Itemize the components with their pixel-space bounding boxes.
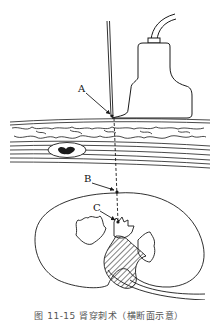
kidney-puncture-diagram: A B C [0,0,218,300]
puncture-needle [107,21,113,116]
probe-body [112,43,192,118]
label-b: B [84,173,119,194]
svg-text:A: A [77,83,86,94]
svg-text:B: B [84,173,91,184]
needle-path [114,118,118,222]
probe-cable [151,14,175,40]
label-c: C [93,202,120,224]
figure-caption: 图 11-15 肾穿刺术（横断面示意） [0,309,218,322]
probe-collar [148,38,160,43]
blood-vessel [48,143,86,158]
label-a: A [77,83,114,118]
fat-layer [12,127,204,129]
ultrasound-probe [112,14,192,118]
tissue-layers [10,119,210,168]
calyx [76,216,106,244]
